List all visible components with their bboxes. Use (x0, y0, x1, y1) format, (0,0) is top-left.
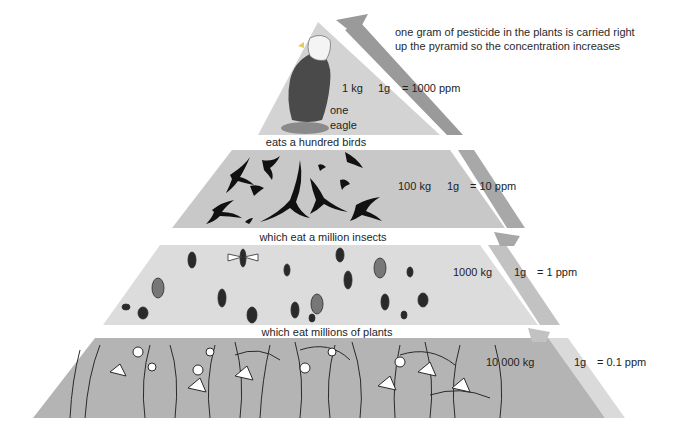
caption-line-2: up the pyramid so the concentration incr… (395, 39, 635, 53)
eagle-mass-label: 1 kg (342, 82, 363, 94)
eagle-subject-line-1: one (330, 104, 348, 116)
connector-birds: eats a hundred birds (266, 136, 366, 148)
tier-insects (103, 245, 538, 325)
eagle-pesticide-label: 1g (378, 82, 390, 94)
caption-line-1: one gram of pesticide in the plants is c… (395, 25, 635, 39)
plants-concentration-label: = 0.1 ppm (597, 356, 646, 368)
eagle-concentration-label: = 1000 ppm (402, 82, 460, 94)
explanation-caption: one gram of pesticide in the plants is c… (395, 25, 635, 53)
insects-mass-label: 1000 kg (453, 266, 492, 278)
birds-pesticide-label: 1g (447, 180, 459, 192)
plants-mass-label: 10 000 kg (486, 356, 534, 368)
pesticide-pyramid-diagram: one gram of pesticide in the plants is c… (0, 0, 681, 441)
connector-insects: which eat a million insects (259, 231, 386, 243)
tier-plants (33, 338, 605, 418)
insects-pesticide-label: 1g (514, 266, 526, 278)
birds-mass-label: 100 kg (398, 180, 431, 192)
plants-pesticide-label: 1g (574, 356, 586, 368)
eagle-subject-line-2: eagle (330, 119, 357, 131)
birds-concentration-label: = 10 ppm (470, 180, 516, 192)
connector-plants: which eat millions of plants (262, 326, 393, 338)
insects-concentration-label: = 1 ppm (537, 266, 577, 278)
